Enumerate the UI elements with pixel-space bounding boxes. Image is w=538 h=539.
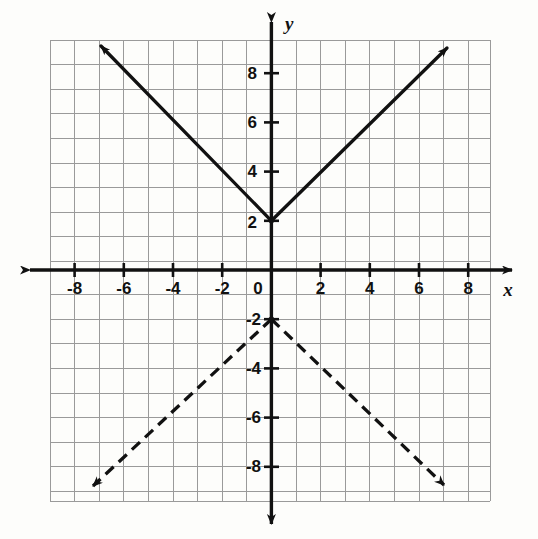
y-tick-label-4: 4 xyxy=(248,162,258,181)
y-tick-label-neg8: -8 xyxy=(246,457,261,476)
x-tick-label-6: 6 xyxy=(414,279,423,298)
y-tick-label-2: 2 xyxy=(248,213,257,232)
x-tick-label-8: 8 xyxy=(463,279,472,298)
dashed-curve-vertex xyxy=(269,316,275,322)
x-tick-label-2: 2 xyxy=(316,279,325,298)
y-tick-label-neg6: -6 xyxy=(246,408,261,427)
y-tick-label-neg4: -4 xyxy=(246,359,262,378)
x-tick-label-neg8: -8 xyxy=(67,279,82,298)
x-axis-label: x xyxy=(502,279,513,300)
y-axis-label: y xyxy=(283,13,294,34)
y-tick-label-neg2: -2 xyxy=(246,310,261,329)
y-tick-label-8: 8 xyxy=(248,64,257,83)
x-tick-label-neg4: -4 xyxy=(165,279,181,298)
coordinate-plane-figure: -8 -6 -4 -2 0 2 4 6 8 8 6 4 2 -2 -4 -6 -… xyxy=(0,0,538,539)
x-tick-label-neg6: -6 xyxy=(116,279,131,298)
x-tick-label-zero: 0 xyxy=(253,279,262,298)
y-tick-label-6: 6 xyxy=(248,113,257,132)
solid-curve-vertex xyxy=(269,218,274,223)
graph-canvas: -8 -6 -4 -2 0 2 4 6 8 8 6 4 2 -2 -4 -6 -… xyxy=(0,0,538,539)
x-tick-label-4: 4 xyxy=(365,279,375,298)
x-tick-label-neg2: -2 xyxy=(215,279,230,298)
